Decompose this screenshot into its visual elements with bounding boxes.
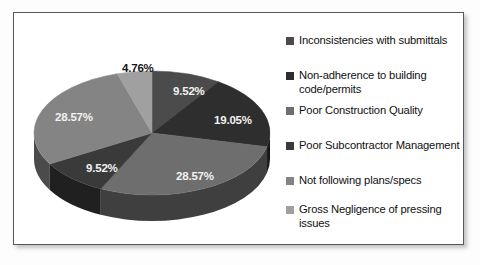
legend-item-label: Not following plans/specs bbox=[299, 174, 422, 188]
legend-item-label: Gross Negligence of pressing issues bbox=[299, 203, 462, 230]
chart-figure: 9.52%19.05%28.57%9.52%28.57%4.76% Incons… bbox=[0, 0, 480, 265]
legend-item-label: Non-adherence to building code/permits bbox=[299, 69, 462, 96]
legend-swatch-icon bbox=[286, 206, 294, 214]
pie-slice-value-label: 9.52% bbox=[86, 162, 118, 174]
legend-item[interactable]: Poor Subcontractor Management bbox=[286, 139, 462, 153]
legend-swatch-icon bbox=[286, 107, 294, 115]
pie-slice-value-label: 9.52% bbox=[173, 85, 205, 97]
pie-slice-value-label: 28.57% bbox=[55, 111, 93, 123]
legend-swatch-icon bbox=[286, 37, 294, 45]
legend-item-label: Poor Subcontractor Management bbox=[299, 139, 459, 153]
legend-item-label: Poor Construction Quality bbox=[299, 104, 423, 118]
legend-swatch-icon bbox=[286, 72, 294, 80]
pie-chart: 9.52%19.05%28.57%9.52%28.57%4.76% bbox=[28, 29, 286, 234]
pie-slice-value-label: 28.57% bbox=[176, 170, 214, 182]
pie-chart-svg bbox=[28, 29, 286, 234]
legend-swatch-icon bbox=[286, 177, 294, 185]
chart-panel: 9.52%19.05%28.57%9.52%28.57%4.76% Incons… bbox=[13, 12, 464, 245]
pie-slice-value-label: 4.76% bbox=[122, 62, 154, 74]
legend-item[interactable]: Gross Negligence of pressing issues bbox=[286, 203, 462, 230]
legend-item[interactable]: Poor Construction Quality bbox=[286, 104, 462, 118]
legend-item[interactable]: Inconsistencies with submittals bbox=[286, 34, 462, 48]
chart-legend: Inconsistencies with submittalsNon-adher… bbox=[286, 27, 462, 237]
legend-item-label: Inconsistencies with submittals bbox=[299, 34, 447, 48]
legend-item[interactable]: Not following plans/specs bbox=[286, 174, 462, 188]
legend-item[interactable]: Non-adherence to building code/permits bbox=[286, 69, 462, 96]
pie-slice-value-label: 19.05% bbox=[214, 114, 252, 126]
legend-swatch-icon bbox=[286, 142, 294, 150]
